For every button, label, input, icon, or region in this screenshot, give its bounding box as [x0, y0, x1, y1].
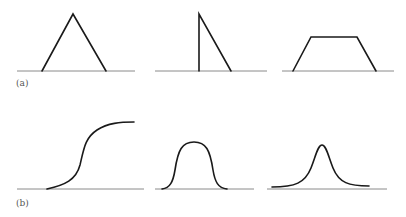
peaked-function	[267, 145, 387, 189]
membership-functions-figure	[0, 0, 406, 217]
panel-a-label: (a)	[16, 79, 28, 88]
triangular-curve	[42, 14, 106, 71]
trapezoidal-curve	[293, 37, 376, 71]
peaked-curve	[272, 145, 369, 187]
panel-b	[17, 122, 387, 189]
sigmoidal-function	[17, 122, 144, 189]
right-triangular-function	[155, 14, 267, 71]
panel-b-label: (b)	[16, 199, 29, 208]
right-triangular-curve	[199, 14, 231, 71]
triangular-function	[17, 14, 135, 71]
sigmoidal-curve	[47, 122, 134, 189]
panel-a	[17, 14, 394, 71]
trapezoidal-function	[282, 37, 394, 71]
bell-shaped-curve	[162, 142, 227, 189]
bell-shaped-function	[155, 142, 254, 189]
